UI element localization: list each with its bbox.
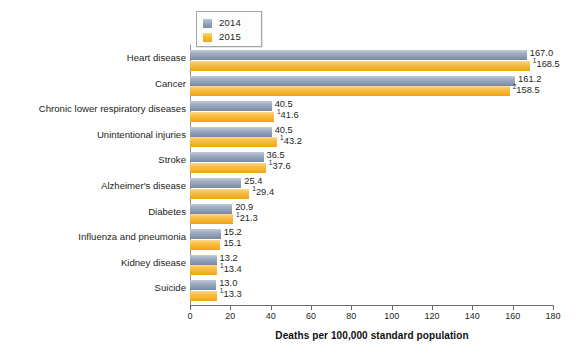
x-tick-mark: [351, 306, 352, 310]
bar-2015[interactable]: [190, 86, 510, 96]
category-label-wrap: Influenza and pneumonia: [0, 227, 186, 253]
footnote-marker: 1: [220, 262, 224, 269]
bar-2015[interactable]: [190, 189, 249, 199]
bar-2015[interactable]: [190, 163, 266, 173]
category-label: Cancer: [0, 79, 186, 89]
footnote-marker: 1: [277, 108, 281, 115]
bar-value-label-2015: 129.4: [252, 188, 274, 197]
bar-value-label-2015: 141.6: [277, 111, 299, 120]
category-label-wrap: Alzheimer's disease: [0, 176, 186, 202]
footnote-marker: 1: [533, 57, 537, 64]
x-tick-label: 120: [417, 311, 447, 321]
bar-2014[interactable]: [190, 101, 272, 111]
footnote-marker: 1: [220, 287, 224, 294]
category-label: Kidney disease: [0, 258, 186, 268]
bar-group-row: Alzheimer's disease25.4129.4: [0, 176, 584, 202]
bar-value-label-2014: 15.2: [224, 228, 242, 237]
x-tick-label: 180: [538, 311, 568, 321]
x-axis-line: [190, 305, 554, 306]
bar-2014[interactable]: [190, 76, 515, 86]
category-label: Diabetes: [0, 207, 186, 217]
x-tick-mark: [271, 306, 272, 310]
bar-value-label-2015: 1168.5: [533, 60, 560, 69]
bar-2014[interactable]: [190, 152, 264, 162]
bar-group-row: Chronic lower respiratory diseases40.514…: [0, 99, 584, 125]
x-tick-label: 20: [215, 311, 245, 321]
cropped-caption-strip: [0, 349, 584, 358]
footnote-marker: 1: [252, 185, 256, 192]
x-tick-label: 40: [256, 311, 286, 321]
bar-2014[interactable]: [190, 255, 217, 265]
bar-group-row: Kidney disease13.2113.4: [0, 253, 584, 279]
x-tick-label: 0: [175, 311, 205, 321]
category-label: Influenza and pneumonia: [0, 232, 186, 242]
bar-value-label-2015: 113.3: [220, 290, 242, 299]
x-tick-label: 80: [336, 311, 366, 321]
x-tick-mark: [513, 306, 514, 310]
category-label: Heart disease: [0, 53, 186, 63]
bar-group-row: Stroke36.5137.6: [0, 150, 584, 176]
x-tick-label: 60: [296, 311, 326, 321]
bar-group-row: Cancer161.22158.5: [0, 74, 584, 100]
bar-2014[interactable]: [190, 50, 527, 60]
bar-2015[interactable]: [190, 240, 220, 250]
category-label: Stroke: [0, 155, 186, 165]
x-tick-mark: [311, 306, 312, 310]
category-label: Unintentional injuries: [0, 130, 186, 140]
bar-2014[interactable]: [190, 229, 221, 239]
x-tick-mark: [472, 306, 473, 310]
bar-2015[interactable]: [190, 61, 530, 71]
bar-value-label-2015: 2158.5: [513, 86, 540, 95]
category-label: Chronic lower respiratory diseases: [0, 104, 186, 114]
footnote-marker: 2: [513, 83, 517, 90]
bar-value-label-2015: 121.3: [236, 214, 258, 223]
category-label-wrap: Stroke: [0, 150, 186, 176]
x-tick-mark: [553, 306, 554, 310]
footnote-marker: 1: [269, 159, 273, 166]
bar-group-row: Unintentional injuries40.5143.2: [0, 125, 584, 151]
x-tick-mark: [230, 306, 231, 310]
bar-2014[interactable]: [190, 280, 216, 290]
bar-2015[interactable]: [190, 214, 233, 224]
category-label-wrap: Cancer: [0, 74, 186, 100]
category-label-wrap: Chronic lower respiratory diseases: [0, 99, 186, 125]
bar-value-label-2014: 161.2: [518, 75, 541, 84]
category-label-wrap: Suicide: [0, 278, 186, 304]
figure-bar-chart-leading-causes-of-death: 2014 2015 Heart disease167.01168.5Cancer…: [0, 0, 584, 358]
plot-area: Heart disease167.01168.5Cancer161.22158.…: [0, 0, 584, 358]
x-tick-mark: [392, 306, 393, 310]
bar-value-label-2015: 143.2: [280, 137, 302, 146]
category-label: Suicide: [0, 283, 186, 293]
category-label-wrap: Heart disease: [0, 48, 186, 74]
bar-2014[interactable]: [190, 178, 241, 188]
bar-value-label-2015: 137.6: [269, 162, 291, 171]
x-tick-mark: [190, 306, 191, 310]
bar-2015[interactable]: [190, 137, 277, 147]
category-label-wrap: Unintentional injuries: [0, 125, 186, 151]
bar-2015[interactable]: [190, 265, 217, 275]
footnote-marker: 1: [236, 211, 240, 218]
bar-2015[interactable]: [190, 112, 274, 122]
bar-2014[interactable]: [190, 127, 272, 137]
bar-value-label-2015: 113.4: [220, 265, 242, 274]
category-label: Alzheimer's disease: [0, 181, 186, 191]
category-label-wrap: Kidney disease: [0, 253, 186, 279]
bar-group-row: Heart disease167.01168.5: [0, 48, 584, 74]
bar-value-label-2015: 15.1: [223, 239, 241, 248]
bar-group-row: Diabetes20.9121.3: [0, 202, 584, 228]
bar-2014[interactable]: [190, 204, 232, 214]
bar-2015[interactable]: [190, 291, 217, 301]
x-tick-label: 100: [377, 311, 407, 321]
x-tick-label: 160: [498, 311, 528, 321]
category-label-wrap: Diabetes: [0, 202, 186, 228]
bar-group-row: Influenza and pneumonia15.215.1: [0, 227, 584, 253]
bar-group-row: Suicide13.0113.3: [0, 278, 584, 304]
footnote-marker: 1: [280, 134, 284, 141]
x-tick-label: 140: [457, 311, 487, 321]
x-tick-mark: [432, 306, 433, 310]
x-axis-title: Deaths per 100,000 standard population: [190, 330, 554, 341]
